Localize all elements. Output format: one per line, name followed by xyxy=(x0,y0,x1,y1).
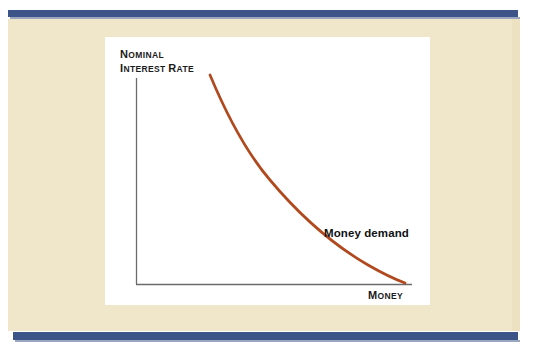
bottom-rule-bar xyxy=(13,332,518,340)
beige-page-edge xyxy=(512,19,520,331)
money-demand-curve-label: Money demand xyxy=(324,227,409,239)
y-axis-label: NOMINAL INTEREST RATE xyxy=(120,48,194,75)
chart-plate xyxy=(105,37,430,305)
figure-root: NOMINAL INTEREST RATE MONEY Money demand xyxy=(0,0,533,357)
x-axis-label: MONEY xyxy=(368,289,403,302)
y-axis-label-line2: INTEREST RATE xyxy=(120,62,194,75)
y-axis-label-line1: NOMINAL xyxy=(120,50,164,60)
bottom-rule-shadow xyxy=(15,340,520,342)
top-rule-bar xyxy=(8,10,518,17)
